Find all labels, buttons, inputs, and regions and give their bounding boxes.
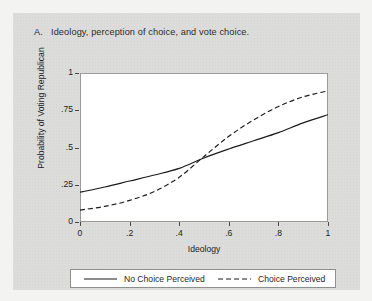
legend-line-dashed-icon — [218, 275, 251, 283]
legend-line-solid-icon — [84, 275, 117, 283]
x-tick-mark — [130, 222, 131, 226]
x-tick-label: .8 — [267, 229, 289, 238]
x-tick-mark — [229, 222, 230, 226]
y-tick-mark — [75, 73, 79, 74]
x-tick-mark — [179, 222, 180, 226]
y-tick-label: .5 — [47, 143, 73, 152]
x-tick-label: .2 — [119, 229, 141, 238]
figure-card: A.Ideology, perception of choice, and vo… — [13, 13, 360, 290]
x-tick-mark — [278, 222, 279, 226]
x-axis-title: Ideology — [80, 244, 328, 254]
x-tick-label: .4 — [168, 229, 190, 238]
legend-label-no-choice-perceived: No Choice Perceived — [124, 274, 205, 284]
panel-title: Ideology, perception of choice, and vote… — [51, 27, 249, 37]
x-tick-label: 1 — [317, 229, 339, 238]
series-line-choice-perceived — [80, 91, 328, 210]
figure-root: A.Ideology, perception of choice, and vo… — [0, 0, 372, 301]
y-tick-mark — [75, 185, 79, 186]
y-tick-label: .25 — [47, 180, 73, 189]
y-tick-mark — [75, 110, 79, 111]
legend-label-choice-perceived: Choice Perceived — [258, 274, 325, 284]
y-tick-mark — [75, 222, 79, 223]
legend-entry-choice-perceived: Choice Perceived — [218, 270, 325, 287]
x-tick-label: .6 — [218, 229, 240, 238]
y-tick-label: .75 — [47, 105, 73, 114]
panel-heading: A.Ideology, perception of choice, and vo… — [34, 27, 354, 43]
x-tick-label: 0 — [69, 229, 91, 238]
chart-canvas — [80, 73, 328, 222]
x-tick-mark — [80, 222, 81, 226]
chart-legend: No Choice Perceived Choice Perceived — [70, 269, 336, 288]
legend-entry-no-choice-perceived: No Choice Perceived — [84, 270, 205, 287]
x-tick-mark — [328, 222, 329, 226]
y-tick-mark — [75, 148, 79, 149]
y-tick-label: 1 — [47, 68, 73, 77]
series-line-no-choice-perceived — [80, 115, 328, 192]
y-tick-label: 0 — [47, 217, 73, 226]
